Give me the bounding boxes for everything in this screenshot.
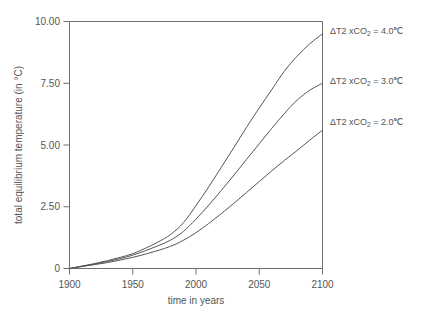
series-line-4-0 xyxy=(70,34,323,269)
x-tick-label-2000: 2000 xyxy=(185,279,208,290)
y-tick-label-7-5: 7.50 xyxy=(41,78,61,89)
annotation-group: ΔT2 xCO2 = 4.0℃ ΔT2 xCO2 = 3.0℃ ΔT2 xCO2… xyxy=(330,26,403,128)
x-tick-label-2050: 2050 xyxy=(248,279,271,290)
series-line-3-0 xyxy=(70,83,323,268)
y-tick-label-5: 5.00 xyxy=(41,140,61,151)
annotation-label-4-0: ΔT2 xCO2 = 4.0℃ xyxy=(330,26,403,37)
annotation-label-2-0: ΔT2 xCO2 = 2.0℃ xyxy=(330,117,403,128)
annotation-suffix-3-0: = 3.0℃ xyxy=(371,76,404,86)
annotation-label-3-0: ΔT2 xCO2 = 3.0℃ xyxy=(330,76,403,87)
annotation-suffix-2-0: = 2.0℃ xyxy=(371,117,404,127)
y-tick-label-2-5: 2.50 xyxy=(41,201,61,212)
series-group xyxy=(70,34,323,269)
x-axis-ticks xyxy=(70,269,323,275)
annotation-prefix-4-0: ΔT2 xCO xyxy=(330,26,367,36)
x-tick-label-1900: 1900 xyxy=(58,279,81,290)
annotation-prefix-3-0: ΔT2 xCO xyxy=(330,76,367,86)
x-axis-title: time in years xyxy=(168,295,225,306)
y-axis-title: total equilibrium temperature (in °C) xyxy=(13,66,24,224)
y-tick-label-0: 0 xyxy=(54,263,60,274)
annotation-suffix-4-0: = 4.0℃ xyxy=(371,26,404,36)
plot-frame xyxy=(70,22,323,269)
y-tick-label-10: 10.00 xyxy=(35,16,60,27)
chart-figure: 10.00 7.50 5.00 2.50 0 1900 1950 2000 20… xyxy=(0,0,423,318)
x-tick-label-1950: 1950 xyxy=(122,279,145,290)
annotation-prefix-2-0: ΔT2 xCO xyxy=(330,117,367,127)
x-tick-label-2100: 2100 xyxy=(311,279,334,290)
line-chart-canvas: 10.00 7.50 5.00 2.50 0 1900 1950 2000 20… xyxy=(0,0,423,318)
y-axis-ticks xyxy=(64,22,70,269)
series-line-2-0 xyxy=(70,130,323,268)
